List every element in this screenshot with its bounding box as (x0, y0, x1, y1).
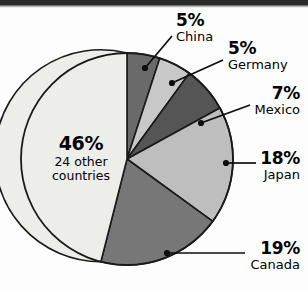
slice-name-canada: Canada (251, 258, 300, 271)
slice-percent-germany: 5% (228, 40, 288, 57)
leader-line-japan (223, 160, 256, 166)
slice-name-japan: Japan (260, 168, 300, 181)
slice-label-canada: 19% Canada (251, 240, 300, 272)
slice-name-mexico: Mexico (255, 103, 300, 116)
slice-label-germany: 5% Germany (228, 40, 288, 72)
slice-label-other-countries: 46% 24 other countries (33, 133, 129, 183)
slice-name-germany: Germany (228, 58, 288, 71)
slice-label-china: 5% China (176, 12, 213, 44)
slice-label-japan: 18% Japan (260, 150, 300, 182)
slice-label-mexico: 7% Mexico (255, 85, 300, 117)
slice-percent-canada: 19% (251, 240, 300, 257)
pie-chart-figure: 5% China 5% Germany 7% Mexico 18% Japan … (0, 0, 308, 290)
slice-percent-china: 5% (176, 12, 213, 29)
slice-percent-japan: 18% (260, 150, 300, 167)
slice-percent-mexico: 7% (255, 85, 300, 102)
slice-name-other-countries-line1: 24 other (33, 155, 129, 169)
slice-name-china: China (176, 30, 213, 43)
slice-percent-other-countries: 46% (33, 133, 129, 154)
slice-name-other-countries-line2: countries (33, 169, 129, 183)
